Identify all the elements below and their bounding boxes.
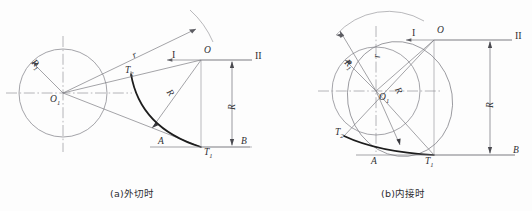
panel-b-label-dim-R: R	[486, 102, 496, 108]
panel-b-construction-circle	[333, 28, 468, 170]
panel-b-connecting-arc	[344, 136, 434, 155]
panel-a-connecting-arc	[131, 74, 201, 147]
panel-a-dim-R-arrow-bottom	[230, 139, 234, 146]
panel-a-geometry	[6, 10, 252, 152]
panel-a-label-O1: O1	[50, 95, 60, 106]
panel-b-label-A: A	[371, 157, 377, 167]
panel-a-label-T2: T2	[125, 66, 134, 77]
panel-b-right-dim-extras	[434, 40, 515, 155]
panel-a-label-dim-R: R	[228, 104, 238, 110]
panel-a-dim-R-arrow-top	[230, 61, 234, 68]
panel-b-line-I-arrowhead	[406, 38, 411, 42]
panel-a-label-A: A	[158, 137, 164, 147]
panel-b-label-T2: T2	[335, 128, 344, 139]
panel-b-label-I: I	[412, 28, 415, 38]
panel-b-geometry	[318, 11, 515, 170]
panel-a-label-I: I	[172, 50, 175, 60]
panel-b-label-B: B	[513, 146, 519, 156]
panel-b-label-O: O	[437, 26, 444, 36]
panel-a-r-leader	[63, 29, 196, 93]
panel-a-r-arrowhead	[189, 29, 196, 33]
panel-a-label-B: B	[241, 137, 247, 147]
panel-b-caption: (b)内接时	[381, 186, 426, 200]
panel-a-caption: (a)外切时	[110, 186, 154, 200]
panel-b-O-to-T2-line	[344, 40, 434, 136]
panel-a-label-O: O	[204, 46, 211, 56]
panel-b-R-arrowhead	[396, 138, 400, 145]
panel-b-label-O1: O1	[379, 93, 389, 104]
panel-a-label-T1: T1	[204, 148, 213, 159]
panel-b-label-II: II	[515, 31, 522, 41]
technical-drawing-svg	[0, 0, 532, 211]
panel-b-dim-R-arrow-bottom	[488, 147, 492, 154]
panel-a-locus-arc	[190, 10, 213, 42]
panel-b-label-T1: T1	[425, 157, 434, 168]
figure-root: O1 R1 r T2 I O R A T1 B II R O1 R1 r I O…	[0, 0, 532, 211]
panel-a-label-II: II	[255, 51, 262, 61]
panel-b-dim-R-arrow-top	[488, 41, 492, 48]
panel-b-locus-arc	[336, 11, 424, 35]
panel-b-label-r: r	[373, 54, 383, 58]
